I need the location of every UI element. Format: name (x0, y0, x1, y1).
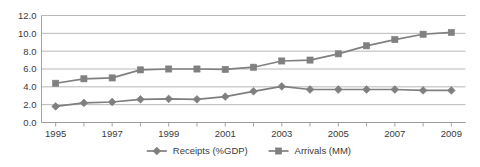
square-marker-icon (448, 29, 454, 35)
y-axis-tick-label: 12.0 (18, 10, 37, 21)
square-marker-icon (275, 148, 281, 154)
diamond-marker-icon (165, 95, 173, 103)
x-axis-tick-label: 2001 (215, 128, 236, 139)
square-marker-icon (166, 66, 172, 72)
square-marker-icon (279, 58, 285, 64)
diamond-marker-icon (137, 95, 145, 103)
legend-label: Arrivals (MM) (295, 145, 351, 156)
x-axis-tick-label: 1999 (158, 128, 179, 139)
y-axis-tick-label: 4.0 (23, 81, 36, 92)
square-marker-icon (194, 66, 200, 72)
diamond-marker-icon (193, 95, 201, 103)
chart-container: 0.02.04.06.08.010.012.019951997199920012… (0, 0, 480, 167)
y-axis-tick-label: 8.0 (23, 46, 36, 57)
square-marker-icon (420, 31, 426, 37)
square-marker-icon (307, 57, 313, 63)
diamond-marker-icon (221, 93, 229, 101)
x-axis-tick-label: 1995 (45, 128, 66, 139)
y-axis-tick-label: 0.0 (23, 117, 36, 128)
diamond-marker-icon (447, 87, 455, 95)
chart-legend: Receipts (%GDP)Arrivals (MM) (147, 145, 351, 156)
diamond-marker-icon (52, 103, 60, 111)
x-axis-tick-label: 2009 (441, 128, 462, 139)
square-marker-icon (335, 51, 341, 57)
x-axis-tick-label: 2003 (271, 128, 292, 139)
x-axis-tick-label: 2007 (384, 128, 405, 139)
x-axis-tick-label: 2005 (328, 128, 349, 139)
legend-item[interactable]: Receipts (%GDP) (147, 145, 248, 156)
diamond-marker-icon (419, 87, 427, 95)
y-axis-tick-label: 6.0 (23, 63, 36, 74)
y-axis-tick-label: 2.0 (23, 99, 36, 110)
diamond-marker-icon (80, 99, 88, 107)
diamond-marker-icon (278, 82, 286, 90)
diamond-marker-icon (153, 147, 161, 155)
square-marker-icon (392, 36, 398, 42)
square-marker-icon (137, 67, 143, 73)
square-marker-icon (222, 66, 228, 72)
line-chart: 0.02.04.06.08.010.012.019951997199920012… (0, 0, 480, 167)
legend-label: Receipts (%GDP) (173, 145, 248, 156)
square-marker-icon (250, 64, 256, 70)
square-marker-icon (363, 43, 369, 49)
y-axis-tick-label: 10.0 (18, 28, 37, 39)
diamond-marker-icon (250, 87, 258, 95)
square-marker-icon (81, 76, 87, 82)
square-marker-icon (53, 80, 59, 86)
square-marker-icon (109, 75, 115, 81)
x-axis: 19951997199920012003200520072009 (45, 123, 462, 140)
series-arrivals-mm (53, 29, 455, 86)
legend-item[interactable]: Arrivals (MM) (269, 145, 351, 156)
x-axis-tick-label: 1997 (102, 128, 123, 139)
